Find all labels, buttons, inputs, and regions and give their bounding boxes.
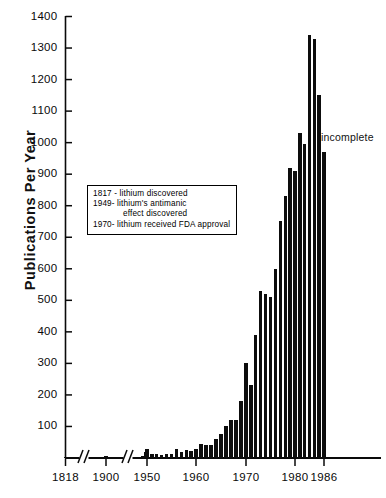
y-tick-label: 500 [18,294,58,305]
bar [254,335,257,458]
bar [104,456,107,458]
annotation-legend-box: 1817 - lithium discovered1949- lithium's… [87,185,237,235]
y-tick-label: 600 [18,263,58,274]
y-tick-label: 300 [18,357,58,368]
bar [160,455,163,458]
bar [180,452,183,458]
annotation-line: 1970- lithium received FDA approval [93,220,230,230]
x-tick-label: 1970 [224,472,268,483]
x-tick-label: 1900 [84,472,128,483]
bar [204,445,207,458]
y-tick-label: 100 [18,420,58,431]
bar [313,39,316,458]
bar [264,294,267,458]
y-tick-label: 1300 [18,42,58,53]
bar [170,454,173,458]
bar [214,439,217,458]
y-tick-label: 1200 [18,74,58,85]
bar [175,449,178,458]
bar [199,444,202,458]
bar [274,269,277,458]
bar [259,291,262,458]
bar [284,196,287,458]
bar [298,133,301,458]
y-tick-label: 400 [18,326,58,337]
lithium-publications-chart: Publications Per Year 100200300400500600… [0,0,386,498]
bar [209,445,212,458]
bar [185,450,188,458]
bar [269,297,272,458]
bar [189,451,192,458]
y-tick-label: 1400 [18,11,58,22]
x-tick-label: 1986 [302,472,346,483]
x-tick-label: 1960 [174,472,218,483]
bar [224,426,227,458]
chart-axes [0,0,386,498]
bar [229,420,232,458]
annotation-line: effect discovered [93,209,230,219]
y-tick-label: 800 [18,200,58,211]
incomplete-annotation: incomplete [321,131,374,143]
bar [194,449,197,458]
bar [239,401,242,458]
bar [219,434,222,458]
bar [165,454,168,458]
y-tick-label: 1000 [18,137,58,148]
y-tick-label: 1100 [18,105,58,116]
bar [249,385,252,458]
annotation-line: 1949- lithium's antimanic [93,199,230,209]
bar [234,420,237,458]
bar [322,152,325,458]
bar [288,168,291,458]
bar [145,449,148,458]
y-tick-label: 700 [18,231,58,242]
y-tick-label: 900 [18,168,58,179]
annotation-line: 1817 - lithium discovered [93,189,230,199]
x-tick-label: 1818 [44,472,88,483]
y-tick-label: 200 [18,389,58,400]
bar [150,454,153,458]
bar [279,221,282,458]
bar [155,454,158,458]
x-tick-label: 1950 [125,472,169,483]
bar [244,363,247,458]
bar [317,95,320,458]
bar [303,144,306,458]
bar [64,457,67,458]
bar [308,35,311,458]
bar [293,171,296,458]
